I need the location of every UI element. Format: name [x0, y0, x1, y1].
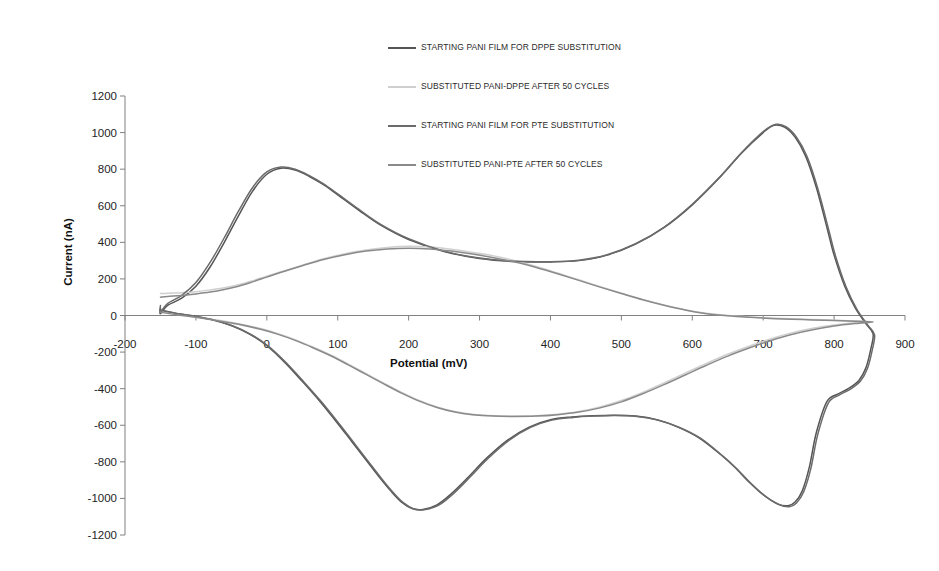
legend-item: STARTING PANI FILM FOR DPPE SUBSTITUTION	[388, 28, 718, 67]
y-tick-label: 0	[111, 310, 117, 322]
x-tick-label: 500	[612, 338, 631, 350]
y-axis-title: Current (nA)	[62, 182, 74, 322]
data-series-curve	[160, 248, 873, 416]
y-tick-label: -600	[94, 419, 117, 431]
x-axis-tick-labels: -200-1000100200300400500600700800900	[0, 338, 939, 358]
x-tick-label: -100	[184, 338, 207, 350]
x-tick-label: 400	[541, 338, 560, 350]
legend-item-label: SUBSTITUTED PANI-PTE AFTER 50 CYCLES	[421, 160, 603, 169]
legend-line-swatch	[388, 164, 416, 166]
legend-item-label: STARTING PANI FILM FOR DPPE SUBSTITUTION	[421, 43, 621, 52]
legend-item: SUBSTITUTED PANI-PTE AFTER 50 CYCLES	[388, 145, 718, 184]
legend-item: SUBSTITUTED PANI-DPPE AFTER 50 CYCLES	[388, 67, 718, 106]
y-tick-label: 200	[98, 273, 117, 285]
x-tick-label: 300	[470, 338, 489, 350]
y-tick-label: 1200	[91, 90, 117, 102]
y-tick-label: 1000	[91, 127, 117, 139]
legend-item-label: STARTING PANI FILM FOR PTE SUBSTITUTION	[421, 121, 614, 130]
y-tick-label: 600	[98, 200, 117, 212]
y-tick-label: 400	[98, 236, 117, 248]
x-tick-label: 900	[895, 338, 914, 350]
legend-item-label: SUBSTITUTED PANI-DPPE AFTER 50 CYCLES	[421, 82, 609, 91]
x-tick-label: 0	[264, 338, 270, 350]
data-series-curve	[160, 246, 873, 416]
x-tick-label: 800	[824, 338, 843, 350]
y-tick-label: 800	[98, 163, 117, 175]
cyclic-voltammogram-figure: STARTING PANI FILM FOR DPPE SUBSTITUTION…	[0, 0, 939, 571]
x-axis-title: Potential (mV)	[390, 357, 467, 369]
y-tick-label: -400	[94, 383, 117, 395]
legend-line-swatch	[388, 125, 416, 127]
x-tick-label: 600	[683, 338, 702, 350]
legend-line-swatch	[388, 86, 416, 88]
y-tick-label: -1000	[88, 492, 117, 504]
y-tick-label: -800	[94, 456, 117, 468]
x-tick-label: 200	[399, 338, 418, 350]
x-tick-label: 100	[328, 338, 347, 350]
x-tick-label: -200	[113, 338, 136, 350]
y-tick-label: -1200	[88, 529, 117, 541]
chart-legend: STARTING PANI FILM FOR DPPE SUBSTITUTION…	[388, 28, 718, 184]
legend-item: STARTING PANI FILM FOR PTE SUBSTITUTION	[388, 106, 718, 145]
x-tick-label: 700	[754, 338, 773, 350]
legend-line-swatch	[388, 47, 416, 49]
